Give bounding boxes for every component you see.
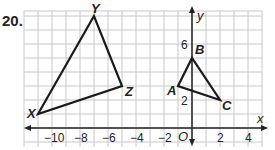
- y-axis-up-arrow-icon: [189, 6, 195, 13]
- x-tick: −10: [44, 131, 65, 145]
- x-tick: −4: [130, 131, 144, 145]
- x-tick: −6: [102, 131, 116, 145]
- vertex-label-c: C: [222, 98, 232, 113]
- vertex-label-z: Z: [124, 84, 134, 99]
- grid: [24, 11, 262, 147]
- vertex-label-b: B: [195, 42, 204, 57]
- vertex-label-x: X: [26, 106, 37, 121]
- coordinate-plane: y x O −10 −8 −6 −4 −2 2 4 2 6 Y X Z B A …: [0, 0, 275, 150]
- origin-label: O: [178, 129, 188, 144]
- x-tick: −8: [74, 131, 88, 145]
- x-axis-label: x: [256, 111, 264, 126]
- vertex-label-y: Y: [91, 1, 101, 16]
- x-tick: 4: [245, 131, 252, 145]
- x-axis-left-arrow-icon: [24, 125, 31, 131]
- vertex-label-a: A: [166, 83, 176, 98]
- x-tick: −2: [158, 131, 172, 145]
- y-tick: 2: [181, 94, 188, 108]
- y-tick: 6: [181, 38, 188, 52]
- x-tick: 2: [217, 131, 224, 145]
